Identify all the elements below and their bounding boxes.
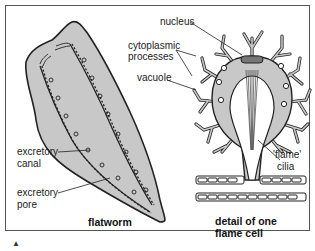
- label-cilia: cilia: [277, 161, 294, 172]
- title-flame-cell-line1: detail of one: [215, 215, 277, 227]
- label-nucleus: nucleus: [160, 16, 194, 27]
- diagram-artwork: [0, 0, 315, 251]
- label-cytoplasmic: cytoplasmic: [128, 40, 180, 51]
- label-flame: 'flame': [273, 149, 301, 160]
- title-flame-cell-line2: flame cell: [215, 227, 263, 239]
- label-vacuole: vacuole: [137, 72, 171, 83]
- caption-marker-icon: ▲: [12, 239, 20, 248]
- flame-cell: [167, 22, 310, 201]
- label-excretory-canal-1: excretory: [17, 146, 58, 157]
- label-excretory-canal-2: canal: [17, 158, 41, 169]
- label-processes: processes: [128, 51, 174, 62]
- label-excretory-pore-1: excretory: [17, 187, 58, 198]
- title-flatworm: flatworm: [88, 216, 132, 228]
- label-excretory-pore-2: pore: [17, 199, 37, 210]
- nucleus-shape: [241, 56, 263, 63]
